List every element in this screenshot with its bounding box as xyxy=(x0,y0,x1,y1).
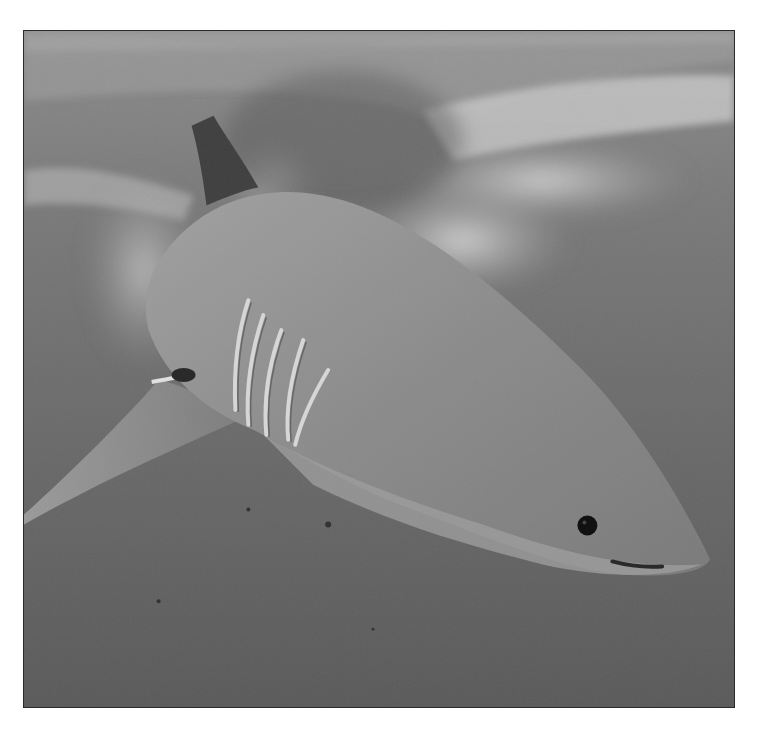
shark-photo xyxy=(23,30,735,708)
shark-eye xyxy=(577,516,597,536)
shark-illustration xyxy=(24,31,734,707)
